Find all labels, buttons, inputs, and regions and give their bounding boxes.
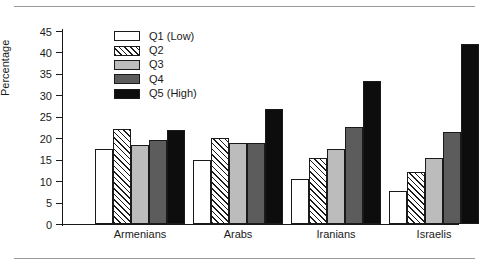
bar-armenians-q4 [149, 140, 167, 224]
bar-armenians-q2 [113, 129, 131, 224]
top-divider-rule [14, 6, 475, 7]
figure-canvas: Percentage 051015202530354045 ArmeniansA… [0, 0, 489, 269]
y-tick-label-5: 5 [46, 198, 52, 209]
bar-israelis-q5 [461, 44, 479, 224]
y-tick-label-25: 25 [40, 112, 52, 123]
y-tick-label-40: 40 [40, 47, 52, 58]
bar-iranians-q3 [327, 149, 345, 224]
x-axis-spine [62, 224, 459, 225]
bar-arabs-q3 [229, 143, 247, 224]
legend-label-q2: Q2 [149, 45, 164, 56]
bar-israelis-q1 [389, 191, 407, 224]
bar-arabs-q1 [193, 160, 211, 224]
bar-arabs-q2 [211, 138, 229, 224]
legend-swatch-q1 [114, 31, 140, 41]
legend-label-q3: Q3 [149, 59, 164, 70]
y-tick-label-30: 30 [40, 90, 52, 101]
bar-group-israelis [389, 31, 479, 224]
bar-arabs-q5 [265, 109, 283, 224]
legend-item-q2: Q2 [114, 43, 234, 57]
y-tick-label-35: 35 [40, 69, 52, 80]
bar-arabs-q4 [247, 143, 265, 224]
y-tick-label-20: 20 [40, 133, 52, 144]
y-axis-title: Percentage [0, 40, 11, 96]
bar-armenians-q5 [167, 130, 185, 224]
legend-label-q1: Q1 (Low) [149, 31, 194, 42]
bar-armenians-q1 [95, 149, 113, 224]
bar-israelis-q3 [425, 158, 443, 224]
legend-swatch-q2 [114, 46, 140, 56]
bar-iranians-q4 [345, 127, 363, 224]
x-category-label-israelis: Israelis [364, 228, 489, 240]
y-tick-label-10: 10 [40, 176, 52, 187]
legend-item-q5: Q5 (High) [114, 87, 234, 101]
bar-iranians-q2 [309, 158, 327, 224]
y-tick-0: 0 [56, 224, 62, 225]
legend-item-q4: Q4 [114, 72, 234, 86]
bar-iranians-q1 [291, 179, 309, 224]
legend-label-q5: Q5 (High) [149, 88, 197, 99]
legend-item-q3: Q3 [114, 58, 234, 72]
legend-swatch-q5 [114, 89, 140, 99]
legend-swatch-q3 [114, 60, 140, 70]
bar-israelis-q4 [443, 132, 461, 224]
bar-group-iranians [291, 31, 381, 224]
bottom-divider-rule [14, 258, 475, 259]
chart-legend: Q1 (Low)Q2Q3Q4Q5 (High) [114, 29, 234, 101]
bar-armenians-q3 [131, 145, 149, 224]
y-tick-label-0: 0 [46, 219, 52, 230]
bar-iranians-q5 [363, 81, 381, 224]
bar-israelis-q2 [407, 172, 425, 224]
legend-swatch-q4 [114, 74, 140, 84]
legend-label-q4: Q4 [149, 74, 164, 85]
y-tick-label-15: 15 [40, 155, 52, 166]
legend-item-q1: Q1 (Low) [114, 29, 234, 43]
y-tick-label-45: 45 [40, 26, 52, 37]
